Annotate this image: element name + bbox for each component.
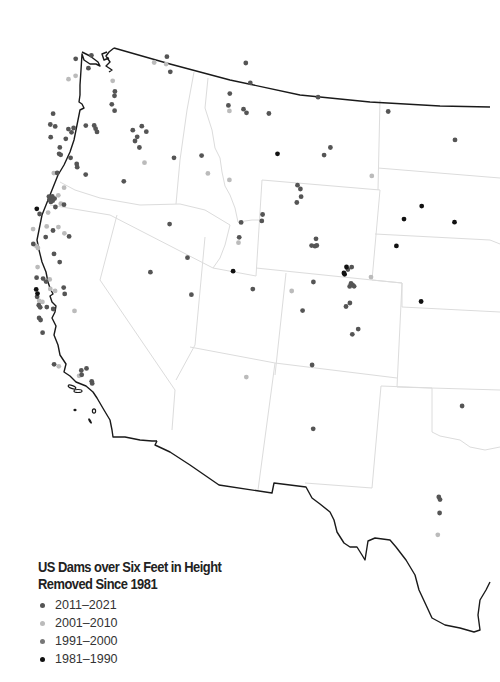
dam-point	[38, 305, 43, 310]
legend-label: 1991–2000	[55, 634, 118, 648]
dam-point	[227, 178, 232, 183]
dam-point	[48, 135, 53, 140]
dam-point	[402, 217, 407, 222]
legend-label: 2011–2021	[55, 598, 117, 612]
dam-point	[419, 204, 424, 209]
dam-point	[36, 246, 41, 251]
dam-point	[344, 265, 349, 270]
dam-point	[79, 372, 84, 377]
dam-point	[394, 244, 399, 249]
state-border-ne-co	[372, 280, 500, 312]
dam-point	[289, 289, 294, 294]
dam-point	[61, 285, 66, 290]
dam-point	[298, 187, 303, 192]
dam-point	[344, 304, 349, 309]
dam-point	[316, 95, 321, 100]
dam-point	[52, 196, 57, 201]
dam-point	[137, 145, 142, 150]
island	[87, 418, 92, 424]
dam-point	[133, 139, 138, 144]
dam-point	[35, 265, 40, 270]
dam-point	[244, 110, 249, 115]
dam-point	[34, 206, 39, 211]
dam-point	[56, 364, 61, 369]
dam-point	[52, 362, 57, 367]
dam-points	[31, 53, 465, 537]
state-border-ut-co	[275, 273, 286, 375]
state-border-id-mt	[205, 78, 262, 222]
dam-point	[311, 280, 316, 285]
canada-border	[114, 48, 490, 107]
dam-point	[56, 225, 61, 230]
dam-point	[299, 194, 304, 199]
state-border-sd-ne	[375, 234, 500, 244]
dam-point	[152, 60, 157, 65]
state-border-nv-ut	[176, 237, 205, 380]
dam-point	[37, 212, 42, 217]
dam-point	[73, 73, 78, 78]
dam-point	[172, 155, 177, 160]
dam-point	[51, 307, 56, 312]
dam-point	[52, 251, 57, 256]
dam-point	[89, 53, 94, 58]
state-border-nm-tx	[305, 386, 381, 488]
dam-point	[295, 183, 300, 188]
dam-point	[38, 318, 43, 323]
dam-point	[57, 145, 62, 150]
state-border-mt-nd	[378, 100, 380, 190]
dam-point	[347, 284, 352, 289]
dam-point	[56, 193, 61, 198]
dam-point	[73, 56, 78, 61]
dam-point	[57, 260, 62, 265]
dam-point	[386, 109, 391, 114]
dam-point	[43, 235, 48, 240]
dam-point	[63, 136, 68, 141]
legend: US Dams over Six Feet in Height Removed …	[38, 558, 278, 668]
dam-point	[460, 404, 465, 409]
dam-point	[322, 153, 327, 158]
dam-point	[144, 129, 149, 134]
state-border-az-nm	[258, 363, 275, 490]
dam-point	[227, 109, 232, 114]
dam-point	[348, 301, 353, 306]
dam-point	[294, 200, 299, 205]
dam-point	[236, 240, 241, 245]
dam-point	[350, 332, 355, 337]
puget-sound	[102, 48, 114, 72]
dam-point	[369, 174, 374, 179]
dam-point	[62, 231, 67, 236]
state-border-id-wy	[256, 180, 262, 276]
dam-point	[239, 220, 244, 225]
island	[68, 384, 77, 390]
dam-point	[248, 81, 253, 86]
legend-title-line1: US Dams over Six Feet in Height	[38, 558, 244, 575]
dam-point	[44, 224, 49, 229]
dam-point	[275, 151, 280, 156]
dam-point	[135, 134, 140, 139]
country-border	[37, 48, 490, 632]
dam-point	[142, 160, 147, 165]
dam-point	[226, 103, 231, 108]
dam-point	[189, 292, 194, 297]
legend-label: 2001–2010	[55, 616, 118, 630]
dam-point	[260, 212, 265, 217]
dam-point	[167, 222, 172, 227]
state-boundaries	[50, 72, 500, 490]
dam-point	[438, 497, 443, 502]
dam-point	[46, 210, 51, 215]
dam-point	[72, 309, 77, 314]
dam-point	[79, 368, 84, 373]
dam-point	[44, 279, 49, 284]
state-border-wa-id	[176, 72, 194, 204]
dam-point	[314, 236, 319, 241]
dam-point	[168, 69, 173, 74]
dam-point	[83, 123, 88, 128]
state-border-az-north	[190, 347, 397, 378]
legend-item-2001-2010: 2001–2010	[38, 614, 278, 632]
dam-point	[311, 426, 316, 431]
dam-point	[139, 124, 144, 129]
legend-list: 2011–2021 2001–2010 1991–2000 1981–1990	[38, 596, 278, 668]
dam-point	[244, 375, 249, 380]
dam-point	[48, 287, 53, 292]
dam-point	[75, 165, 80, 170]
